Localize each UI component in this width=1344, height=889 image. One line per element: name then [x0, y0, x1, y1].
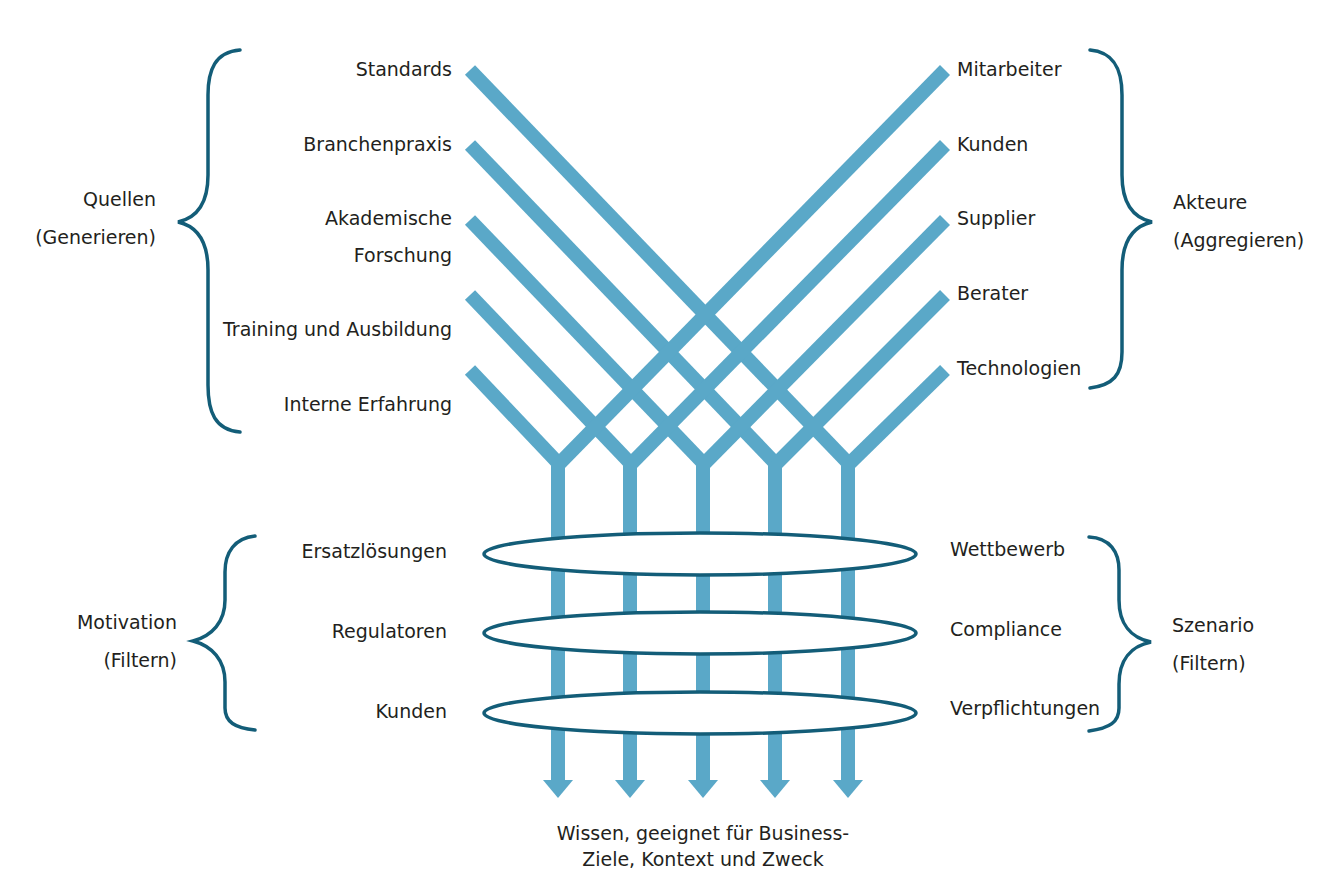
filter-ellipse-3: [484, 692, 916, 734]
group-subtitle: (Generieren): [35, 218, 156, 256]
arrow-down-icon: [760, 780, 790, 798]
knowledge-flow-diagram: Standards Branchenpraxis Akademische For…: [0, 0, 1344, 889]
group-title: Quellen: [35, 180, 156, 218]
group-title: Motivation: [77, 603, 177, 641]
flow-line-standards: [470, 70, 850, 465]
scenario-label-wettbewerb: Wettbewerb: [950, 537, 1065, 561]
actor-label-supplier: Supplier: [957, 206, 1035, 230]
group-title-szenario: Szenario (Filtern): [1172, 606, 1254, 682]
source-label-akademische: Akademische: [325, 206, 452, 230]
source-label-forschung: Forschung: [354, 243, 452, 267]
curly-brace-icon: [1090, 50, 1152, 388]
source-label-standards: Standards: [356, 57, 452, 81]
source-label-branchenpraxis: Branchenpraxis: [303, 132, 452, 156]
arrow-down-icon: [543, 780, 573, 798]
flow-line-training: [470, 295, 632, 465]
scenario-label-compliance: Compliance: [950, 617, 1062, 641]
actor-label-kunden: Kunden: [957, 132, 1028, 156]
filter-ellipse-2: [484, 612, 916, 654]
flow-line-mitarbeiter: [558, 70, 945, 465]
arrow-down-icon: [833, 780, 863, 798]
source-label-interne-erfahrung: Interne Erfahrung: [284, 392, 452, 416]
motivation-label-kunden: Kunden: [376, 699, 447, 723]
curly-brace-icon: [178, 50, 240, 432]
group-title: Akteure: [1173, 183, 1304, 221]
flow-line-berater: [775, 295, 945, 465]
output-caption-line1: Wissen, geeignet für Business-: [503, 820, 903, 846]
group-title-motivation: Motivation (Filtern): [77, 603, 177, 679]
motivation-label-ersatzloesungen: Ersatzlösungen: [302, 539, 447, 563]
diagram-graphics: [0, 0, 1344, 889]
actor-label-berater: Berater: [957, 281, 1028, 305]
arrow-down-icon: [688, 780, 718, 798]
filter-ellipse-1: [484, 533, 916, 575]
group-title-akteure: Akteure (Aggregieren): [1173, 183, 1304, 259]
source-label-training: Training und Ausbildung: [223, 317, 452, 341]
group-title: Szenario: [1172, 606, 1254, 644]
group-subtitle: (Filtern): [1172, 644, 1254, 682]
curly-brace-icon: [193, 536, 255, 730]
output-caption: Wissen, geeignet für Business- Ziele, Ko…: [503, 820, 903, 872]
scenario-label-verpflichtungen: Verpflichtungen: [950, 696, 1100, 720]
group-subtitle: (Aggregieren): [1173, 221, 1304, 259]
actor-label-technologien: Technologien: [957, 356, 1081, 380]
arrow-down-icon: [615, 780, 645, 798]
actor-label-mitarbeiter: Mitarbeiter: [957, 57, 1062, 81]
motivation-label-regulatoren: Regulatoren: [332, 619, 447, 643]
group-subtitle: (Filtern): [77, 641, 177, 679]
output-caption-line2: Ziele, Kontext und Zweck: [503, 846, 903, 872]
group-title-quellen: Quellen (Generieren): [35, 180, 156, 256]
